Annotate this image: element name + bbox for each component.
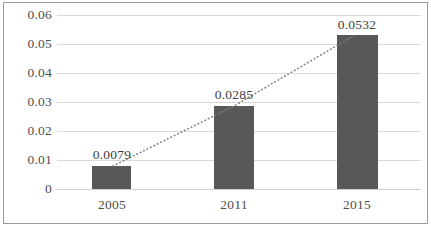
y-axis-tick-label: 0.04 <box>8 66 52 80</box>
y-axis-tick-label: 0.01 <box>8 153 52 167</box>
axis-baseline <box>57 189 421 190</box>
y-axis-tick-label: 0.03 <box>8 95 52 109</box>
y-axis-tick-label: 0 <box>8 182 52 196</box>
data-label-2011: 0.0285 <box>198 88 270 102</box>
x-axis-label-2011: 2011 <box>198 198 270 212</box>
y-axis-tick-label: 0.06 <box>8 8 52 22</box>
y-axis-tick-label: 0.05 <box>8 37 52 51</box>
gridline-0.06 <box>57 15 421 16</box>
data-label-2005: 0.0079 <box>76 148 148 162</box>
bar-2011[interactable] <box>214 106 254 189</box>
bar-2015[interactable] <box>337 35 378 189</box>
x-axis-label-2005: 2005 <box>76 198 148 212</box>
data-label-2015: 0.0532 <box>321 18 393 32</box>
x-axis-label-2015: 2015 <box>321 198 393 212</box>
bar-2005[interactable] <box>92 166 131 189</box>
y-axis-tick-label: 0.02 <box>8 124 52 138</box>
chart-plot-area: 0.06 0.05 0.04 0.03 0.02 0.01 0 0.0079 0… <box>0 0 431 228</box>
